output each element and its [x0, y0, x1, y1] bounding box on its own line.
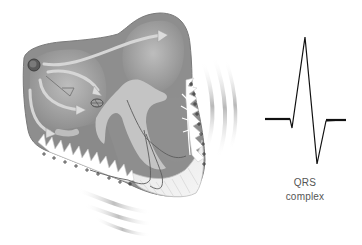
depolarization-waves-right	[203, 57, 236, 158]
ecg-qrs-trace	[265, 37, 346, 164]
depolarization-waves-bottom	[78, 190, 152, 235]
ecg-label-qrs: QRS	[265, 176, 345, 189]
heart-conduction-diagram	[0, 0, 362, 245]
sa-node	[28, 59, 40, 71]
av-node	[91, 99, 103, 107]
ecg-label-complex: complex	[265, 190, 345, 203]
ventricle-conduction-band	[58, 132, 76, 134]
